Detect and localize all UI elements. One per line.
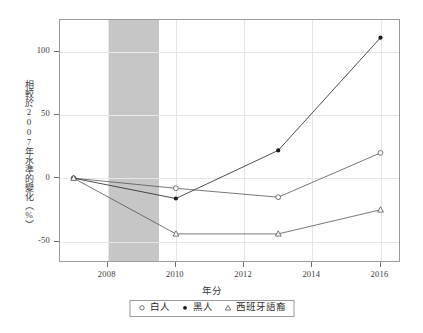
series-line <box>74 38 381 199</box>
chart-legend: 白人黑人西班牙語裔 <box>129 300 294 317</box>
legend-label: 黑人 <box>193 303 213 313</box>
y-tick-mark <box>54 51 59 52</box>
x-tick-label: 2014 <box>288 269 334 279</box>
y-tick-mark <box>54 114 59 115</box>
marker-open-circle <box>276 195 281 200</box>
series-line <box>74 153 381 197</box>
marker-open-circle <box>378 151 383 156</box>
marker-filled-circle <box>276 148 280 152</box>
y-tick-label: 50 <box>0 108 50 118</box>
series-layer <box>60 20 401 263</box>
x-axis-title: 年分 <box>0 283 423 297</box>
y-tick-label: 0 <box>0 172 50 182</box>
x-tick-label: 2016 <box>357 269 403 279</box>
x-tick-mark <box>175 262 176 267</box>
series-2 <box>71 175 384 236</box>
x-tick-mark <box>107 262 108 267</box>
legend-label: 西班牙語裔 <box>236 303 286 313</box>
marker-open-circle <box>174 186 179 191</box>
y-tick-mark <box>54 177 59 178</box>
x-tick-label: 2012 <box>220 269 266 279</box>
chart-figure: 相較於2007年水準的變化（%） 100500-50 2008201020122… <box>0 0 423 333</box>
x-tick-label: 2008 <box>84 269 130 279</box>
legend-open-triangle-icon <box>223 303 232 312</box>
y-axis-title: 相較於2007年水準的變化（%） <box>14 52 34 257</box>
legend-entry-1: 黑人 <box>180 303 213 313</box>
legend-filled-circle-icon <box>180 303 189 312</box>
marker-open-triangle <box>173 231 179 236</box>
legend-entry-0: 白人 <box>137 303 170 313</box>
marker-open-triangle <box>378 207 384 212</box>
series-0 <box>71 151 383 200</box>
legend-entry-2: 西班牙語裔 <box>223 303 286 313</box>
series-line <box>74 178 381 234</box>
y-tick-mark <box>54 241 59 242</box>
x-tick-label: 2010 <box>152 269 198 279</box>
plot-area <box>59 19 400 262</box>
marker-filled-circle <box>174 196 178 200</box>
y-tick-label: 100 <box>0 45 50 55</box>
x-tick-mark <box>380 262 381 267</box>
x-tick-mark <box>311 262 312 267</box>
series-1 <box>72 36 383 201</box>
legend-open-circle-icon <box>137 303 146 312</box>
y-tick-label: -50 <box>0 235 50 245</box>
legend-label: 白人 <box>150 303 170 313</box>
x-tick-mark <box>243 262 244 267</box>
marker-filled-circle <box>378 36 382 40</box>
